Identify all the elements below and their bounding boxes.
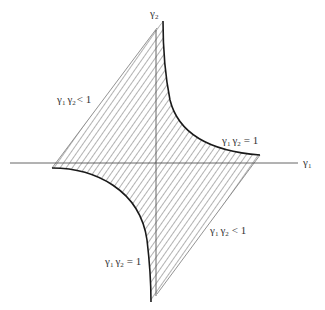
label-upper-right-curve: γ1γ2= 1 (221, 134, 258, 148)
hatched-region (0, 0, 325, 310)
y-axis-label: γ2 (149, 7, 159, 21)
stability-region-diagram: γ2 γ1 γ1γ2< 1 γ1γ2= 1 γ1γ2< 1 γ1γ2= 1 (0, 0, 325, 310)
x-axis-label: γ1 (302, 156, 312, 170)
label-upper-left-inequality: γ1γ2< 1 (56, 93, 91, 107)
label-lower-left-curve: γ1γ2= 1 (104, 255, 141, 269)
label-lower-right-inequality: γ1γ2< 1 (209, 224, 246, 238)
